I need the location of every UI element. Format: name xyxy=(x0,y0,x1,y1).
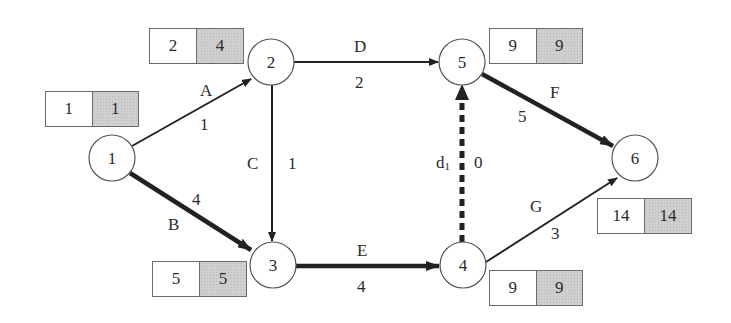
edge-C-name: C xyxy=(247,154,258,173)
edge-dummy-d1: d1 0 xyxy=(436,84,483,242)
node-3-latest: 5 xyxy=(200,262,246,296)
edge-D-name: D xyxy=(354,37,366,56)
node-1-label: 1 xyxy=(108,149,117,168)
node-3-label: 3 xyxy=(269,256,278,275)
edge-B: B 4 xyxy=(130,173,251,250)
node-5-time-box: 9 9 xyxy=(489,28,583,64)
edge-dummy-duration: 0 xyxy=(474,153,483,172)
node-5-earliest: 9 xyxy=(490,29,537,63)
node-2-time-box: 2 4 xyxy=(149,28,244,64)
node-2-earliest: 2 xyxy=(150,29,197,63)
node-3: 3 xyxy=(250,242,296,288)
node-1-earliest: 1 xyxy=(46,92,93,126)
edge-F-duration: 5 xyxy=(518,107,527,126)
edge-A-duration: 1 xyxy=(200,115,209,134)
node-2: 2 xyxy=(248,39,294,85)
edge-A-name: A xyxy=(200,81,213,100)
edge-dummy-name: d1 xyxy=(436,153,450,172)
node-4-label: 4 xyxy=(459,256,468,275)
node-4-latest: 9 xyxy=(537,271,583,305)
node-2-label: 2 xyxy=(267,53,276,72)
network-diagram: A 1 B 4 C 1 D 2 E 4 F 5 G 3 d1 xyxy=(0,0,731,323)
node-4: 4 xyxy=(440,242,486,288)
node-1-latest: 1 xyxy=(93,92,139,126)
node-1: 1 xyxy=(89,135,135,181)
node-1-time-box: 1 1 xyxy=(45,91,139,127)
edge-C: C 1 xyxy=(247,85,297,241)
node-5-latest: 9 xyxy=(537,29,583,63)
node-6-latest: 14 xyxy=(645,199,691,233)
edge-E-duration: 4 xyxy=(357,277,366,296)
node-6-earliest: 14 xyxy=(598,199,645,233)
node-6-time-box: 14 14 xyxy=(597,198,692,234)
edge-D-duration: 2 xyxy=(355,73,364,92)
node-2-latest: 4 xyxy=(197,29,243,63)
node-3-earliest: 5 xyxy=(153,262,200,296)
node-3-time-box: 5 5 xyxy=(152,261,247,297)
edge-A: A 1 xyxy=(132,79,251,146)
node-6-label: 6 xyxy=(631,149,640,168)
node-5-label: 5 xyxy=(458,53,467,72)
node-5: 5 xyxy=(439,39,485,85)
edge-F: F 5 xyxy=(482,74,613,146)
edge-B-name: B xyxy=(168,215,179,234)
node-4-earliest: 9 xyxy=(490,271,537,305)
edge-B-duration: 4 xyxy=(192,190,201,209)
edge-C-duration: 1 xyxy=(288,154,297,173)
edge-F-name: F xyxy=(550,83,559,102)
edge-G-name: G xyxy=(530,197,542,216)
edge-D: D 2 xyxy=(294,37,438,92)
node-6: 6 xyxy=(612,135,658,181)
edge-E-name: E xyxy=(357,241,367,260)
node-4-time-box: 9 9 xyxy=(489,270,583,306)
edge-E: E 4 xyxy=(296,241,439,296)
edge-G-duration: 3 xyxy=(551,224,560,243)
